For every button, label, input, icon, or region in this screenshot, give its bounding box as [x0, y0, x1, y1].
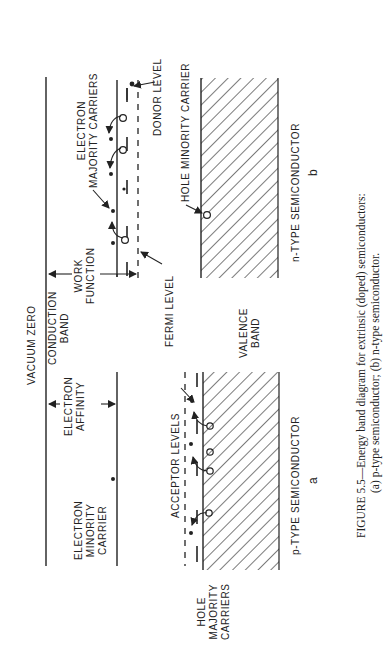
label-donor-level: DONOR LEVEL	[152, 58, 164, 136]
electron-majority-carriers	[109, 82, 134, 245]
valence-band-n	[201, 78, 278, 278]
figure-caption-line-1: FIGURE 5.5—Energy band diagram for extri…	[355, 193, 367, 538]
label-work-function: WORK FUNCTION	[73, 248, 97, 304]
acceptor-electrons	[189, 399, 194, 535]
electron-minority-carrier	[111, 477, 115, 481]
acceptor-levels-pointer	[181, 388, 194, 402]
label-electron-majority-carriers: ELECTRON MAJORITY CARRIERS	[76, 73, 100, 188]
label-hole-majority-carriers: HOLE MAJORITY CARRIERS	[196, 584, 232, 640]
panel-label-a: a	[307, 477, 319, 484]
panel-label-b: b	[307, 169, 319, 176]
label-acceptor-levels: ACCEPTOR LEVELS	[170, 413, 182, 518]
donor-excitation-arrows	[109, 116, 123, 238]
electron-majority-pointer	[93, 190, 109, 208]
figure-caption-line-2: (a) p-type semiconductor; (b) n-type sem…	[369, 253, 381, 493]
label-vacuum-zero: VACUUM ZERO	[26, 305, 38, 385]
fermi-level-pointer	[141, 252, 162, 264]
energy-band-figure: VACUUM ZERO CONDUCTION BAND WORK FUNCTIO…	[0, 0, 390, 649]
label-conduction-band: CONDUCTION BAND	[47, 291, 71, 365]
label-electron-minority-carrier: ELECTRON MINORITY CARRIER	[73, 501, 109, 560]
label-fermi-level: FERMI LEVEL	[164, 275, 176, 347]
ionized-donors	[120, 115, 129, 244]
valence-band-p	[203, 372, 279, 570]
label-hole-minority-carrier: HOLE MINORITY CARRIER	[180, 63, 192, 202]
label-p-type: p-TYPE SEMICONDUCTOR	[290, 416, 302, 555]
label-electron-affinity: ELECTRON AFFINITY	[63, 377, 87, 436]
label-n-type: n-TYPE SEMICONDUCTOR	[290, 123, 302, 262]
label-valence-band: VALENCE BAND	[238, 308, 262, 358]
